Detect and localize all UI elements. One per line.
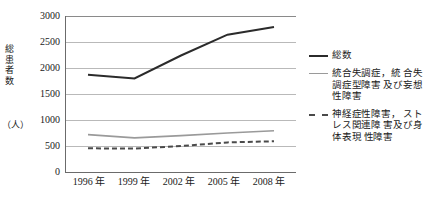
y-axis-title: 総 患 者 数 <box>2 44 16 86</box>
y-tick-500: 500 <box>16 141 60 151</box>
y-tick-0: 0 <box>16 167 60 177</box>
y-tick-1000: 1000 <box>16 115 60 125</box>
y-axis-title-char-4: 数 <box>2 76 16 87</box>
legend-label-neurotic: 神経症性障害， ストレス関連障 害及び身体表現 性障害 <box>332 109 424 144</box>
series-lines <box>66 16 296 172</box>
series-line-total <box>88 27 274 79</box>
y-tick-2500: 2500 <box>16 37 60 47</box>
y-axis-title-char-3: 者 <box>2 65 16 76</box>
x-tick-2008: 2008 年 <box>242 176 296 188</box>
legend-item-schizophrenia: 統合失調症，統 合失調症型障害 及び妄想性障害 <box>309 68 424 103</box>
y-axis-title-char-2: 患 <box>2 55 16 66</box>
plot-area <box>65 16 296 173</box>
legend-label-total: 総数 <box>332 50 352 62</box>
y-tick-1500: 1500 <box>16 89 60 99</box>
line-solid-gray-icon <box>309 68 328 80</box>
series-line-schiz <box>88 131 274 138</box>
y-axis-title-char-1: 総 <box>2 44 16 55</box>
series-line-neuro <box>88 141 274 148</box>
legend-item-total: 総数 <box>309 50 424 62</box>
y-tick-2000: 2000 <box>16 63 60 73</box>
line-solid-dark-icon <box>309 50 328 62</box>
legend-item-neurotic: 神経症性障害， ストレス関連障 害及び身体表現 性障害 <box>309 109 424 144</box>
x-axis-tick-labels: 1996 年 1999 年 2002 年 2005 年 2008 年 <box>65 176 295 196</box>
y-tick-3000: 3000 <box>16 11 60 21</box>
y-axis-tick-labels: 3000 2500 2000 1500 1000 500 0 <box>16 0 60 211</box>
line-dashed-icon <box>309 109 328 121</box>
legend-label-schizophrenia: 統合失調症，統 合失調症型障害 及び妄想性障害 <box>332 68 424 103</box>
chart-legend: 総数 統合失調症，統 合失調症型障害 及び妄想性障害 神経症性障害， ストレス関… <box>309 50 424 149</box>
y-axis-unit: （人） <box>2 120 16 130</box>
line-chart: 総 患 者 数 （人） 3000 2500 2000 1500 1000 500… <box>0 0 426 211</box>
